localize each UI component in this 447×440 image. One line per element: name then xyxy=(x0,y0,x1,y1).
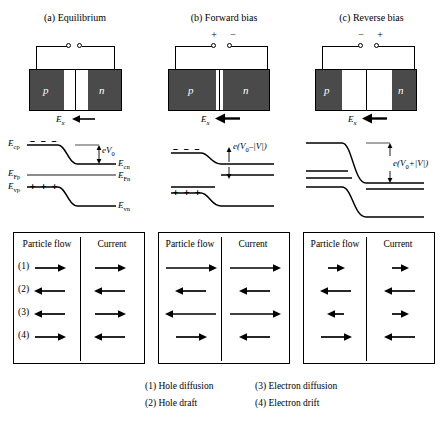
efield-sub-a: x xyxy=(62,119,65,127)
evn-sub: vn xyxy=(124,205,131,212)
barrier-suffix-c: +|V|) xyxy=(409,158,429,168)
p-label-c: p xyxy=(324,84,330,96)
panel-reverse-bias: (c) Reverse bias − + p n Ex xyxy=(296,0,447,225)
efield-sub-c: x xyxy=(354,119,357,127)
n-label-c: n xyxy=(398,84,404,96)
wire-top-right-b xyxy=(231,46,267,47)
barrier-sub-a: 0 xyxy=(112,150,115,157)
diode-block-c: p n xyxy=(315,69,417,111)
legend-item-1: (1) Hole diffusion xyxy=(145,381,213,391)
wire-top-left-a xyxy=(36,46,68,47)
wire-top-left-b xyxy=(175,46,212,47)
panel-equilibrium: (a) Equilibrium p n Ex xyxy=(0,0,150,225)
figure-root: (a) Equilibrium p n Ex xyxy=(0,0,447,440)
depletion-region-c xyxy=(342,70,392,110)
legend-item-3: (3) Electron diffusion xyxy=(255,381,337,391)
legend-item-4: (4) Electron drift xyxy=(255,398,319,408)
barrier-label-c: e(V0+|V|) xyxy=(393,158,428,170)
terminal-left-b[interactable] xyxy=(211,43,216,48)
table-header-particle-c: Particle flow xyxy=(306,239,364,249)
table-divider-c xyxy=(366,237,367,361)
efn-sub: Fn xyxy=(124,175,131,182)
n-label-a: n xyxy=(99,84,105,96)
table-header-current-b: Current xyxy=(225,239,281,249)
positive-charges-a: + + + xyxy=(30,182,59,192)
wire-top-left-c xyxy=(322,46,359,47)
ecn-sub: cn xyxy=(124,163,130,170)
efield-label-b: Ex xyxy=(201,114,210,127)
table-header-current-a: Current xyxy=(84,239,140,249)
ecp-sub: cp xyxy=(14,143,20,150)
table-header-particle-a: Particle flow xyxy=(18,239,76,249)
barrier-symbol-a: eV xyxy=(102,145,112,155)
depletion-region-a xyxy=(64,70,88,110)
efield-sub-b: x xyxy=(207,119,210,127)
wire-top-right-a xyxy=(82,46,114,47)
terminal-right-b[interactable] xyxy=(227,43,232,48)
efield-label-a: Ex xyxy=(56,114,65,127)
barrier-suffix-b: –|V|) xyxy=(249,141,267,151)
junction-line-a xyxy=(75,70,76,110)
efield-arrow-c xyxy=(362,112,388,125)
efield-label-c: Ex xyxy=(348,114,357,127)
band-label-efn: EFn xyxy=(118,170,130,182)
efield-arrow-b xyxy=(215,112,241,125)
diode-block-a: p n xyxy=(29,69,122,111)
barrier-symbol-b: e(V xyxy=(233,141,246,151)
panel-forward-bias: (b) Forward bias + − p n Ex xyxy=(149,0,299,225)
terminal-left-a[interactable] xyxy=(66,43,71,48)
efp-sub: Fp xyxy=(14,173,21,180)
table-divider-b xyxy=(221,237,222,361)
diode-block-b: p n xyxy=(168,69,270,111)
legend-item-2: (2) Hole draft xyxy=(145,398,197,408)
evp-sub: vp xyxy=(14,186,21,193)
negative-charges-a: – – – xyxy=(30,136,58,146)
table-forward-bias: Particle flow Current xyxy=(158,232,290,364)
band-diagram-b xyxy=(149,131,299,223)
efield-arrow-a xyxy=(72,113,96,125)
barrier-label-b: e(V0–|V|) xyxy=(233,141,267,153)
band-label-ecn: Ecn xyxy=(118,158,130,170)
table-divider-a xyxy=(80,237,81,361)
table-header-current-c: Current xyxy=(370,239,426,249)
n-label-b: n xyxy=(243,84,249,96)
wire-top-right-c xyxy=(378,46,414,47)
p-label-a: p xyxy=(43,84,49,96)
barrier-label-a: eV0 xyxy=(102,145,115,157)
terminal-right-a[interactable] xyxy=(77,43,82,48)
band-label-evp: Evp xyxy=(8,181,20,193)
table-reverse-bias: Particle flow Current xyxy=(303,232,435,364)
table-equilibrium: Particle flow Current xyxy=(13,232,145,364)
p-label-b: p xyxy=(188,84,194,96)
band-label-evn: Evn xyxy=(118,200,130,212)
table-header-particle-b: Particle flow xyxy=(161,239,219,249)
terminal-right-c[interactable] xyxy=(374,43,379,48)
n-region-c xyxy=(392,70,416,110)
band-diagram-c xyxy=(296,131,447,223)
barrier-symbol-c: e(V xyxy=(393,158,406,168)
negative-charges-b: – – – xyxy=(173,144,201,154)
band-label-ecp: Ecp xyxy=(8,138,20,150)
junction-line-c xyxy=(366,70,367,110)
band-label-efp: EFp xyxy=(8,168,20,180)
terminal-left-c[interactable] xyxy=(358,43,363,48)
positive-charges-b: + + + xyxy=(173,188,202,198)
junction-line-b xyxy=(219,70,220,110)
